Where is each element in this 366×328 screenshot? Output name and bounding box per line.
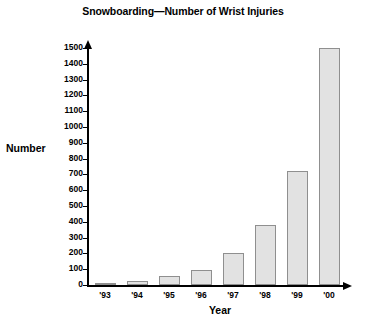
y-tick-mark (83, 238, 87, 239)
y-tick-label: 1500 (64, 42, 83, 53)
y-tick-mark (83, 159, 87, 160)
y-tick-label: 600 (69, 184, 83, 195)
y-tick-label: 700 (69, 168, 83, 179)
bar (127, 281, 148, 285)
y-tick-label: 100 (69, 263, 83, 274)
y-tick-mark (83, 253, 87, 254)
bar-series (89, 40, 345, 285)
y-axis-label: Number (6, 142, 64, 154)
y-tick-label: 300 (69, 232, 83, 243)
x-axis-line (87, 285, 345, 287)
y-tick-mark (83, 174, 87, 175)
x-tick-label: '00 (309, 290, 349, 300)
bar (159, 276, 180, 285)
x-axis-label: Year (90, 304, 350, 316)
y-tick-label: 800 (69, 153, 83, 164)
bar (287, 171, 308, 285)
bar-chart: Snowboarding—Number of Wrist Injuries Nu… (0, 0, 366, 328)
y-tick-mark (83, 222, 87, 223)
bar (95, 283, 116, 285)
y-tick-label: 1200 (64, 89, 83, 100)
y-tick-label: 1400 (64, 58, 83, 69)
y-tick-label: 200 (69, 247, 83, 258)
y-tick-mark (83, 95, 87, 96)
y-tick-mark (83, 143, 87, 144)
y-tick-label: 500 (69, 200, 83, 211)
y-tick-mark (83, 111, 87, 112)
bar (255, 225, 276, 285)
bar (223, 253, 244, 285)
bar (319, 48, 340, 285)
y-tick-mark (83, 48, 87, 49)
y-tick: 0 (87, 285, 91, 286)
y-tick-label: 1300 (64, 74, 83, 85)
plot-area: 0100200300400500600700800900100011001200… (87, 40, 359, 288)
y-tick-label: 0 (78, 279, 83, 290)
y-tick-label: 1000 (64, 121, 83, 132)
y-tick-label: 400 (69, 216, 83, 227)
y-tick-label: 1100 (65, 105, 83, 116)
y-tick-mark (83, 269, 87, 270)
y-tick-mark (83, 206, 87, 207)
y-tick-mark (83, 285, 87, 286)
y-tick-mark (83, 64, 87, 65)
y-tick-mark (83, 190, 87, 191)
bar (191, 270, 212, 285)
y-tick-mark (83, 127, 87, 128)
y-tick-mark (83, 80, 87, 81)
chart-title: Snowboarding—Number of Wrist Injuries (0, 5, 366, 17)
y-tick-label: 900 (69, 137, 83, 148)
